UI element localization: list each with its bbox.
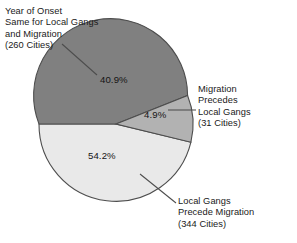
callout-line: Year of Onset: [5, 6, 99, 17]
callout-label-same-onset: Year of Onset Same for Local Gangs and M…: [5, 6, 99, 52]
callout-line: Precede Migration: [178, 207, 254, 218]
callout-line: (344 Cities): [178, 219, 254, 230]
callout-line: Same for Local Gangs: [5, 17, 99, 28]
slice-percent-same-onset: 40.9%: [100, 74, 128, 85]
callout-line: Local Gangs: [178, 196, 254, 207]
callout-label-local-precede: Local Gangs Precede Migration (344 Citie…: [178, 196, 254, 230]
callout-line: and Migration: [5, 29, 99, 40]
pie-chart-figure: 40.9% 4.9% 54.2% Year of Onset Same for …: [0, 0, 297, 243]
callout-line: Migration: [198, 84, 251, 95]
slice-percent-local-precede: 54.2%: [88, 150, 116, 161]
callout-label-migration-precedes: Migration Precedes Local Gangs (31 Citie…: [198, 84, 251, 130]
callout-line: Precedes: [198, 95, 251, 106]
callout-line: (31 Cities): [198, 118, 251, 129]
callout-line: Local Gangs: [198, 107, 251, 118]
callout-line: (260 Cities): [5, 40, 99, 51]
slice-percent-migration-precedes: 4.9%: [144, 109, 167, 120]
